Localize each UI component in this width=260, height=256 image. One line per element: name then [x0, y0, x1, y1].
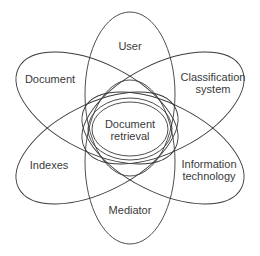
- label-information-technology: Information technology: [181, 158, 236, 182]
- label-user: User: [118, 40, 141, 52]
- label-information-line2: technology: [181, 170, 236, 182]
- label-information-line1: Information: [181, 158, 236, 170]
- user-ellipse: [85, 12, 175, 176]
- label-user-line1: User: [118, 40, 141, 52]
- label-document-line1: Document: [25, 73, 75, 85]
- label-classification-system: Classification system: [181, 71, 246, 95]
- label-classification-line1: Classification: [181, 71, 246, 83]
- label-mediator-line1: Mediator: [109, 204, 152, 216]
- mediator-ellipse: [85, 80, 175, 244]
- label-indexes: Indexes: [30, 159, 69, 171]
- label-classification-line2: system: [181, 83, 246, 95]
- indexes-ellipse: [0, 69, 195, 227]
- label-center-line1: Document: [105, 118, 155, 130]
- label-center-line2: retrieval: [105, 130, 155, 142]
- label-mediator: Mediator: [109, 204, 152, 216]
- label-indexes-line1: Indexes: [30, 159, 69, 171]
- label-document-retrieval: Document retrieval: [105, 118, 155, 142]
- label-document: Document: [25, 73, 75, 85]
